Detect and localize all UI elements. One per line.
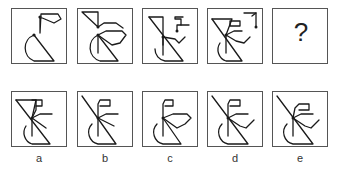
zigzag-line	[226, 35, 250, 43]
sequence-panel-2	[77, 8, 133, 64]
flag-shape	[293, 104, 309, 118]
sequence-panel-4	[207, 8, 263, 64]
pivot-dot	[97, 34, 100, 37]
option-e-panel[interactable]	[272, 91, 328, 147]
figure-4	[208, 9, 264, 65]
triangle-shape	[82, 12, 98, 27]
diagonal-circle-shape	[212, 19, 242, 61]
option-a-label[interactable]: a	[11, 152, 67, 164]
sequence-panel-1	[11, 8, 67, 64]
flag-shape	[98, 31, 126, 45]
pivot-dot	[225, 34, 228, 37]
option-e-label[interactable]: e	[272, 152, 328, 164]
diagonal-circle-shape	[16, 100, 50, 144]
diagonal-circle-shape	[149, 17, 183, 61]
side-line	[293, 114, 313, 118]
arrow-dot	[255, 26, 258, 29]
pivot-dot	[97, 117, 100, 120]
bracket-dot	[176, 30, 179, 33]
pivot-dot	[292, 117, 295, 120]
pivot-dot	[31, 117, 34, 120]
figure-1	[12, 9, 68, 65]
flag-shape	[32, 100, 42, 106]
option-a-figure	[12, 92, 68, 148]
dot-upper	[97, 26, 100, 29]
bracket-shape	[175, 17, 183, 31]
pentagon-shape	[163, 114, 191, 128]
option-c-panel[interactable]	[142, 91, 198, 147]
option-d-panel[interactable]	[207, 91, 263, 147]
pivot-dot	[32, 33, 35, 36]
option-b-label[interactable]: b	[77, 152, 133, 164]
side-line	[98, 114, 118, 118]
hook-line	[98, 23, 123, 28]
diagonal-circle-shape	[154, 118, 181, 144]
sequence-panel-3	[142, 8, 198, 64]
option-b-panel[interactable]	[77, 91, 133, 147]
side-line	[228, 114, 248, 118]
flag-shape	[40, 14, 61, 33]
sequence-panel-5: ?	[272, 8, 328, 64]
flag-dot	[38, 15, 41, 18]
pivot-dot	[227, 117, 230, 120]
figure-2	[78, 9, 134, 65]
pivot-dot	[162, 117, 165, 120]
side-line	[32, 114, 52, 118]
pivot-dot	[162, 36, 165, 39]
option-d-figure	[208, 92, 264, 148]
figure-3	[143, 9, 199, 65]
option-b-figure	[78, 92, 134, 148]
option-d-label[interactable]: d	[207, 152, 263, 164]
option-c-label[interactable]: c	[142, 152, 198, 164]
option-e-figure	[273, 92, 329, 148]
option-c-figure	[143, 92, 199, 148]
upper-frame	[149, 17, 163, 45]
half-circle-shape	[25, 35, 54, 61]
question-mark: ?	[273, 17, 329, 48]
option-a-panel[interactable]	[11, 91, 67, 147]
side-line	[226, 31, 242, 35]
